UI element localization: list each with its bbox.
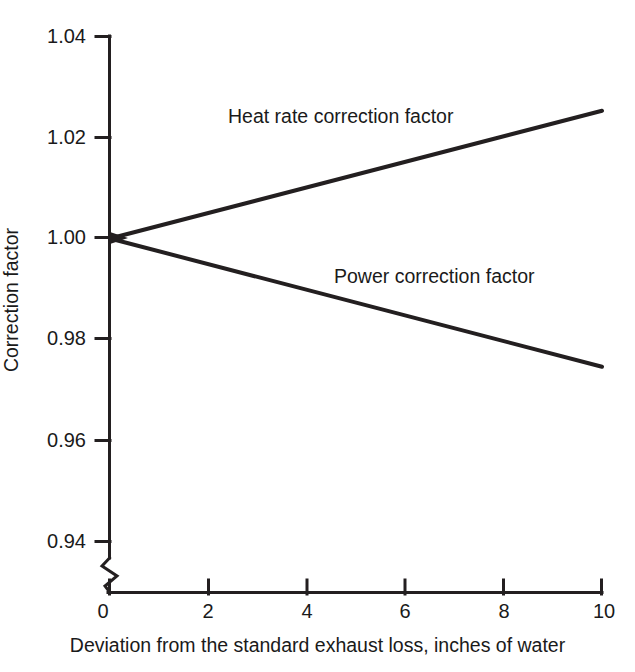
series-annotation-heat-rate: Heat rate correction factor xyxy=(228,105,453,128)
series-line-heat-rate xyxy=(110,111,602,239)
x-tick-label-10: 10 xyxy=(593,600,615,623)
y-tick-label-0-98: 0.98 xyxy=(12,327,86,350)
x-tick-label-0: 0 xyxy=(97,600,108,623)
y-tick-label-0-96: 0.96 xyxy=(12,429,86,452)
x-tick-label-4: 4 xyxy=(301,600,312,623)
y-axis-title: Correction factor xyxy=(0,228,23,372)
y-axis-ticks xyxy=(96,37,110,542)
x-tick-label-2: 2 xyxy=(202,600,213,623)
x-axis-title: Deviation from the standard exhaust loss… xyxy=(70,634,565,657)
y-tick-label-1-00: 1.00 xyxy=(12,226,86,249)
chart-plot-area xyxy=(0,0,635,672)
x-tick-label-8: 8 xyxy=(498,600,509,623)
y-tick-label-1-04: 1.04 xyxy=(12,25,86,48)
y-tick-label-0-94: 0.94 xyxy=(12,530,86,553)
chart-figure: 1.04 1.02 1.00 0.98 0.96 0.94 0 2 4 6 8 … xyxy=(0,0,635,672)
series-annotation-power: Power correction factor xyxy=(334,265,535,288)
x-tick-label-6: 6 xyxy=(399,600,410,623)
y-tick-label-1-02: 1.02 xyxy=(12,126,86,149)
series-line-power xyxy=(110,239,602,367)
